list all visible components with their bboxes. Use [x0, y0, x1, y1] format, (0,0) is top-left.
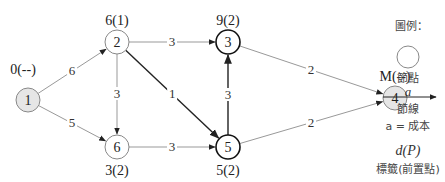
legend-arc-symbol: a [405, 84, 412, 99]
edge-cost-2-6: 3 [114, 86, 121, 101]
legend-node-label: 節點 [397, 71, 419, 85]
edge-cost-2-5: 1 [169, 86, 176, 101]
node-id-3: 3 [225, 35, 232, 50]
node-label-3: 9(2) [216, 13, 240, 29]
legend-node-icon [397, 46, 419, 68]
legend-cost-text: a = 成本 [386, 119, 431, 133]
node-id-2: 2 [114, 35, 121, 50]
node-id-6: 6 [114, 140, 121, 155]
node-label-6: 3(2) [105, 163, 129, 179]
node-id-5: 5 [225, 140, 232, 155]
legend-label-desc: 標籤(前置點) [376, 162, 440, 176]
nodes: 10(--)26(1)39(2)4M(--)55(2)63(2) [10, 13, 411, 179]
network-diagram: 653313322 10(--)26(1)39(2)4M(--)55(2)63(… [0, 0, 445, 182]
edge-cost-5-4: 2 [308, 115, 315, 130]
edge-cost-6-5: 3 [169, 139, 176, 154]
edge-cost-3-4: 2 [308, 62, 315, 77]
node-label-1: 0(--) [10, 62, 36, 78]
node-label-2: 6(1) [105, 13, 129, 29]
node-id-1: 1 [25, 93, 32, 108]
legend-title: 圖例： [395, 19, 428, 33]
node-label-5: 5(2) [216, 163, 240, 179]
edge-cost-2-3: 3 [169, 34, 176, 49]
edge-cost-5-3: 3 [225, 87, 232, 102]
legend-label-symbol: d(P) [396, 143, 421, 159]
edge-cost-1-2: 6 [69, 63, 76, 78]
legend-arc-label: 節線 [397, 102, 419, 116]
legend: 圖例： 節點 a 節線 a = 成本 d(P) 標籤(前置點) [376, 19, 440, 176]
edges: 653313322 [38, 34, 383, 154]
edge-cost-1-6: 5 [69, 115, 76, 130]
